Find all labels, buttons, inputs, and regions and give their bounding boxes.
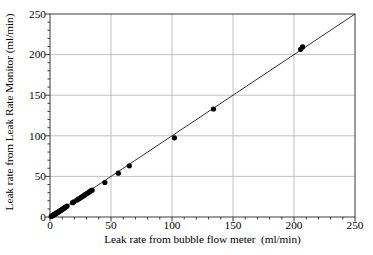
data-points <box>49 44 306 219</box>
scatter-plot-figure: Leak rate from Leak Rate Monitor (ml/min… <box>0 0 373 255</box>
plot-area <box>0 0 373 255</box>
identity-line <box>50 14 355 217</box>
